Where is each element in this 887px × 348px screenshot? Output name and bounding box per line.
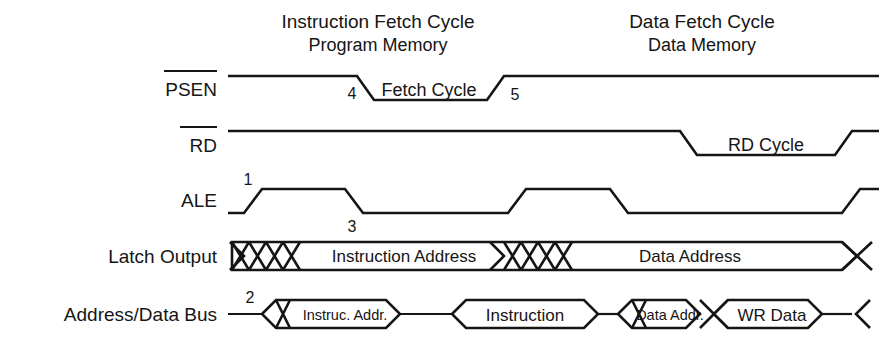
bus-segment-data-addr: Data Addr. xyxy=(618,300,704,328)
signal-row-rd: RD RD Cycle xyxy=(180,127,879,156)
latch-output-label-instruction-address: Instruction Address xyxy=(332,247,477,266)
cycle-label-fetch-cycle: Fetch Cycle xyxy=(381,80,476,100)
bus-label-data-addr: Data Addr. xyxy=(636,307,704,323)
header-instruction-fetch: Instruction Fetch Cycle Program Memory xyxy=(281,11,474,55)
bus-segment-instruc-addr: Instruc. Addr. xyxy=(262,300,400,328)
signal-label-latch-output: Latch Output xyxy=(108,246,218,267)
timing-diagram-canvas: Instruction Fetch Cycle Program Memory D… xyxy=(0,0,887,348)
signal-row-psen: PSEN Fetch Cycle 4 5 xyxy=(164,71,879,103)
marker-5: 5 xyxy=(511,86,520,103)
marker-3: 3 xyxy=(348,218,357,235)
signal-label-psen: PSEN xyxy=(165,79,217,100)
waveform-psen xyxy=(228,76,879,100)
bus-segment-wr-data: WR Data xyxy=(714,300,822,328)
bus-label-wr-data: WR Data xyxy=(738,306,808,325)
latch-output-bus-body xyxy=(232,242,857,270)
latch-output-label-data-address: Data Address xyxy=(639,247,741,266)
header-title-data-fetch: Data Fetch Cycle xyxy=(629,11,775,32)
timing-diagram: Instruction Fetch Cycle Program Memory D… xyxy=(0,0,887,348)
signal-label-address-data-bus: Address/Data Bus xyxy=(64,304,217,325)
marker-4: 4 xyxy=(348,85,357,102)
header-subtitle-data-memory: Data Memory xyxy=(648,35,756,55)
signal-label-ale: ALE xyxy=(181,190,217,211)
header-subtitle-program-memory: Program Memory xyxy=(308,35,447,55)
marker-2: 2 xyxy=(246,289,255,306)
marker-1: 1 xyxy=(244,171,253,188)
bus-label-instruc-addr: Instruc. Addr. xyxy=(303,307,388,323)
address-bus-terminator xyxy=(856,300,870,328)
header-data-fetch: Data Fetch Cycle Data Memory xyxy=(629,11,775,55)
header-title-instruction-fetch: Instruction Fetch Cycle xyxy=(281,11,474,32)
signal-label-rd: RD xyxy=(190,135,217,156)
bus-segment-instruction: Instruction xyxy=(452,300,598,328)
signal-row-address-data-bus: Address/Data Bus 2 Instruc. Addr. Instru… xyxy=(64,289,870,328)
cycle-label-rd-cycle: RD Cycle xyxy=(728,135,804,155)
bus-label-instruction: Instruction xyxy=(486,306,564,325)
waveform-ale xyxy=(228,189,879,213)
signal-row-latch-output: Latch Output Instruction Address xyxy=(108,242,872,270)
signal-row-ale: ALE 1 3 xyxy=(181,171,879,235)
